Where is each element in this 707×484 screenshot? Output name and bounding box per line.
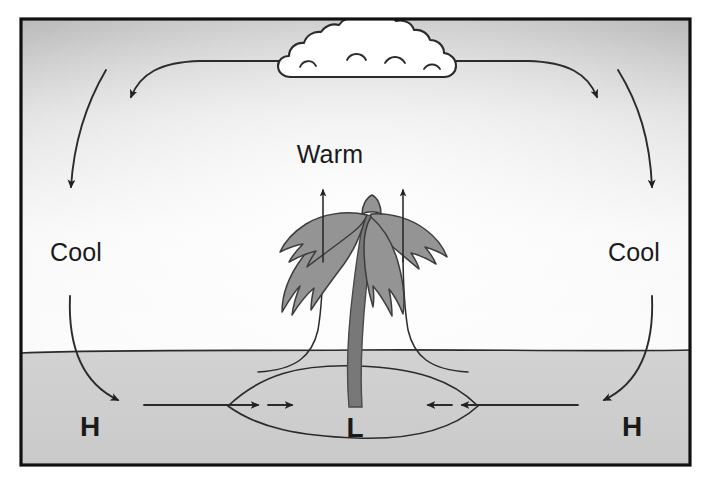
label-high-pressure-right: H [622,411,642,443]
sea-breeze-diagram: Warm Cool Cool H H L [0,0,707,484]
label-warm: Warm [297,140,364,169]
label-cool-left: Cool [50,238,102,267]
label-low-pressure-center: L [346,412,363,444]
label-high-pressure-left: H [80,411,100,443]
label-cool-right: Cool [608,238,660,267]
